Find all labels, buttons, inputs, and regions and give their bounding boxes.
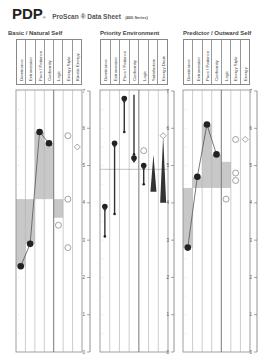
data-point (36, 129, 43, 136)
data-point (46, 140, 53, 147)
data-point (194, 173, 201, 180)
range-point (131, 155, 137, 161)
y-tick-label: 0 (249, 350, 252, 355)
shaded-bar (221, 162, 231, 188)
y-tick-label: 4 (249, 200, 252, 205)
range-end (104, 235, 107, 238)
range-point (141, 163, 147, 169)
energy-wedge (150, 154, 156, 191)
data-point (204, 121, 211, 128)
data-point (17, 263, 24, 270)
shaded-bar (44, 143, 53, 199)
range-point (112, 140, 118, 146)
y-tick-label: 3 (249, 238, 252, 243)
y-tick-label: 7 (166, 89, 169, 94)
y-tick-label: 1 (166, 312, 169, 317)
y-tick-label: 2 (166, 275, 169, 280)
circle-marker (141, 148, 147, 154)
y-tick-label: 1 (249, 312, 252, 317)
range-end (113, 213, 116, 216)
diamond-marker (160, 133, 166, 139)
y-tick-label: 5 (166, 163, 169, 168)
y-tick-label: 5 (82, 163, 85, 168)
circle-marker (233, 170, 239, 176)
range-point (102, 204, 108, 210)
range-end (133, 153, 136, 156)
data-point (213, 151, 220, 158)
y-tick-label: 4 (166, 200, 169, 205)
y-tick-label: 3 (166, 238, 169, 243)
y-tick-label: 6 (249, 126, 252, 131)
range-arrow (122, 100, 126, 103)
diamond-marker (242, 136, 248, 142)
shaded-bar (54, 199, 63, 218)
data-point (27, 241, 34, 248)
circle-marker (55, 222, 61, 228)
shaded-bar (212, 154, 222, 188)
y-tick-label: 1 (82, 312, 85, 317)
y-tick-label: 4 (82, 200, 85, 205)
range-arrow (113, 145, 117, 148)
data-point (184, 244, 191, 251)
y-tick-label: 2 (249, 275, 252, 280)
circle-marker (223, 196, 229, 202)
circle-marker (65, 196, 71, 202)
y-tick-label: 7 (82, 89, 85, 94)
y-tick-label: 3 (82, 238, 85, 243)
y-tick-label: 6 (82, 126, 85, 131)
range-arrow (132, 160, 136, 163)
plot-frame (183, 90, 250, 352)
y-tick-label: 0 (166, 350, 169, 355)
y-tick-label: 2 (82, 275, 85, 280)
shaded-bar (183, 188, 193, 248)
y-tick-label: 5 (249, 163, 252, 168)
y-tick-label: 6 (166, 126, 169, 131)
range-end (142, 183, 145, 186)
diamond-marker (74, 144, 80, 150)
circle-marker (65, 133, 71, 139)
shaded-bar (16, 199, 25, 266)
range-point (121, 96, 127, 102)
y-tick-label: 0 (82, 350, 85, 355)
circle-marker (65, 245, 71, 251)
y-tick-label: 7 (249, 89, 252, 94)
chart-canvas: 012345670123456701234567 (0, 0, 276, 364)
shaded-bar (35, 132, 44, 199)
circle-marker (233, 136, 239, 142)
range-end (123, 131, 126, 134)
range-arrow (103, 209, 107, 212)
circle-marker (233, 177, 239, 183)
